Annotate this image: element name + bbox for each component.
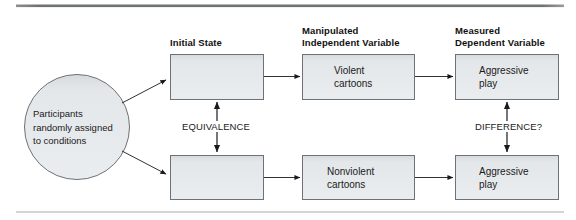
initial-state-box-top xyxy=(171,55,264,100)
independent-variable-label-bottom: Nonviolent cartoons xyxy=(327,165,374,191)
independent-variable-label-top: Violent cartoons xyxy=(334,64,372,90)
difference-label: DIFFERENCE? xyxy=(473,121,544,132)
experiment-design-diagram: Initial State Manipulated Independent Va… xyxy=(0,0,576,220)
participants-label: Participants randomly assigned to condit… xyxy=(33,107,113,148)
arrow-source-to-initial-bottom xyxy=(122,151,166,174)
arrow-source-to-initial-top xyxy=(122,80,166,103)
top-rule xyxy=(16,5,564,8)
equivalence-label: EQUIVALENCE xyxy=(180,121,252,132)
header-independent-variable: Manipulated Independent Variable xyxy=(302,25,400,48)
header-initial-state: Initial State xyxy=(170,37,222,49)
bottom-rule xyxy=(16,212,564,213)
header-dependent-variable: Measured Dependent Variable xyxy=(455,25,545,48)
dependent-variable-label-top: Aggressive play xyxy=(479,64,528,90)
dependent-variable-label-bottom: Aggressive play xyxy=(479,165,528,191)
initial-state-box-bottom xyxy=(171,156,264,200)
